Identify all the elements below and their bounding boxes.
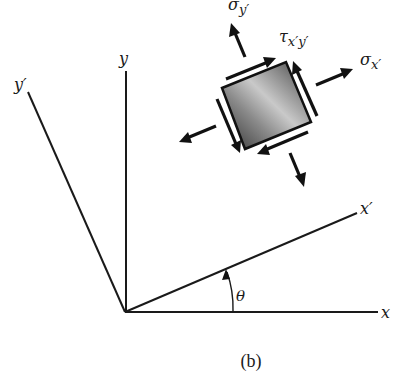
y-prime-axis-label: y′ bbox=[13, 75, 27, 94]
y-prime-axis bbox=[28, 92, 125, 312]
sigma-x-subscript: x′ bbox=[371, 57, 381, 72]
tau-label: τx′y′ bbox=[279, 27, 308, 49]
x-axis-label: x bbox=[381, 303, 390, 322]
x-prime-axis-label: x′ bbox=[360, 199, 373, 218]
svg-text:σy′: σy′ bbox=[228, 0, 249, 17]
axes-group bbox=[28, 71, 378, 312]
sigma-y-subscript: y′ bbox=[238, 2, 249, 17]
sigma-y-prime-arrow-up bbox=[235, 33, 245, 57]
svg-text:σx′: σx′ bbox=[360, 50, 381, 72]
sigma-x-prime-arrow-left bbox=[187, 126, 216, 138]
figure-caption: (b) bbox=[241, 351, 262, 372]
theta-label: θ bbox=[236, 287, 245, 305]
sigma-y-prime-arrowhead-down-icon bbox=[295, 172, 306, 187]
sigma-y-prime-arrowhead-icon bbox=[229, 23, 240, 37]
sigma-x-prime-label: σx′ bbox=[360, 50, 381, 72]
stress-transformation-diagram: x y x′ y′ θ σx′ σy′ bbox=[0, 0, 393, 372]
tau-subscript: x′y′ bbox=[288, 34, 309, 49]
svg-text:τx′y′: τx′y′ bbox=[279, 27, 308, 49]
stress-element bbox=[179, 23, 353, 187]
theta-arc bbox=[222, 269, 233, 311]
y-axis-label: y bbox=[118, 49, 129, 68]
sigma-y-prime-label: σy′ bbox=[228, 0, 249, 17]
sigma-x-prime-arrow-right bbox=[316, 73, 345, 85]
sigma-y-prime-arrow-down bbox=[290, 153, 300, 177]
